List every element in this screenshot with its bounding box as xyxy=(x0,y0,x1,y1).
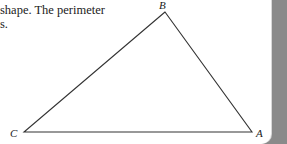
vertex-label-a: A xyxy=(255,127,263,139)
vertex-label-c: C xyxy=(10,127,18,139)
triangle-abc xyxy=(24,12,252,132)
triangle-figure: B C A xyxy=(0,0,271,144)
vertex-label-b: B xyxy=(159,0,166,11)
content-panel: shape. The perimeter s. B C A xyxy=(0,0,271,144)
page: shape. The perimeter s. B C A xyxy=(0,0,287,144)
